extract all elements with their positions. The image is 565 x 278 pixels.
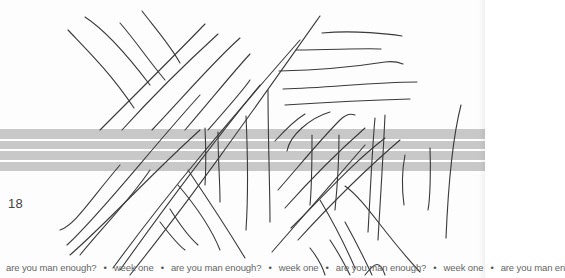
bullet-separator: •: [433, 262, 436, 273]
footer-text: week one: [114, 262, 154, 273]
footer-text: week one: [279, 262, 319, 273]
footer-text: are you man enough?: [336, 262, 427, 273]
page-number: 18: [8, 196, 23, 211]
bullet-separator: •: [326, 262, 329, 273]
bullet-separator: •: [268, 262, 271, 273]
footer-text: are you man enough?: [171, 262, 262, 273]
footer-text: week one: [444, 262, 484, 273]
bullet-separator: •: [490, 262, 493, 273]
bullet-separator: •: [161, 262, 164, 273]
page-edge-shadow: [479, 0, 485, 278]
footer-text: are you man enough?: [6, 262, 97, 273]
bullet-separator: •: [104, 262, 107, 273]
footer-text: are you man en: [501, 262, 565, 273]
